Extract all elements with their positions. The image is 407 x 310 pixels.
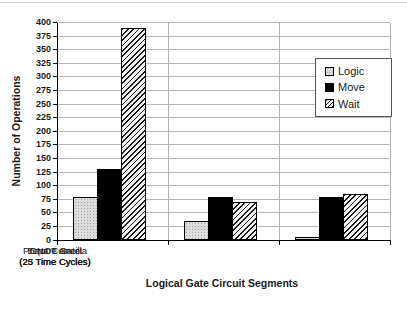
figure-top-border	[0, 2, 407, 3]
wait-swatch-icon	[325, 99, 334, 108]
y-tick-label: 300	[27, 72, 51, 81]
y-tick-label: 250	[27, 100, 51, 109]
y-tick-label: 400	[27, 18, 51, 27]
y-tick-label: 175	[27, 140, 51, 149]
gridline	[57, 144, 390, 145]
y-tick-label: 100	[27, 181, 51, 190]
y-axis-title: Number of Operations	[10, 76, 22, 187]
bar-wait-2	[343, 194, 368, 240]
category-separator	[168, 23, 169, 241]
y-tick-label: 200	[27, 127, 51, 136]
y-tick-label: 50	[27, 208, 51, 217]
y-axis-line	[57, 23, 58, 242]
gridline	[57, 158, 390, 159]
legend-item-move: Move	[325, 81, 389, 93]
bar-chart-figure: Number of Operations Logical Gate Circui…	[0, 0, 407, 310]
bar-wait-0	[121, 28, 146, 240]
gridline	[57, 36, 390, 37]
gridline	[57, 22, 390, 23]
x-axis-line	[57, 240, 391, 241]
x-axis-tick	[279, 241, 280, 245]
x-axis-tick	[168, 241, 169, 245]
gridline	[57, 49, 390, 50]
category-label-line2: (23 Time Cycles)	[19, 256, 90, 267]
x-axis-tick	[57, 241, 58, 245]
plot-right-border	[390, 23, 391, 241]
category-label-line1: CNOT Gate	[30, 245, 80, 256]
legend-label-logic: Logic	[338, 65, 364, 77]
legend-item-wait: Wait	[325, 98, 389, 110]
legend-label-move: Move	[338, 81, 365, 93]
y-tick-label: 350	[27, 45, 51, 54]
y-tick-label: 125	[27, 168, 51, 177]
bar-move-1	[208, 197, 233, 241]
gridline	[57, 117, 390, 118]
y-tick-label: 75	[27, 195, 51, 204]
move-swatch-icon	[325, 83, 334, 92]
bar-logic-1	[184, 221, 209, 240]
gridline	[57, 131, 390, 132]
legend-item-logic: Logic	[325, 65, 389, 77]
x-axis-title: Logical Gate Circuit Segments	[72, 277, 372, 289]
x-axis-tick	[390, 241, 391, 245]
y-tick-label: 225	[27, 113, 51, 122]
bar-logic-0	[73, 197, 98, 241]
y-tick-label: 275	[27, 86, 51, 95]
bar-wait-1	[232, 202, 257, 240]
bar-move-2	[319, 197, 344, 241]
y-tick-label: 25	[27, 222, 51, 231]
y-tick-label: 150	[27, 154, 51, 163]
legend: Logic Move Wait	[315, 58, 392, 117]
category-separator	[279, 23, 280, 241]
bar-move-0	[97, 169, 122, 240]
logic-swatch-icon	[325, 67, 334, 76]
y-tick-label: 375	[27, 32, 51, 41]
y-tick-label: 325	[27, 59, 51, 68]
legend-label-wait: Wait	[338, 98, 360, 110]
y-tick-label: 0	[27, 236, 51, 245]
category-label-cnot-gate: CNOT Gate (23 Time Cycles)	[0, 245, 110, 267]
